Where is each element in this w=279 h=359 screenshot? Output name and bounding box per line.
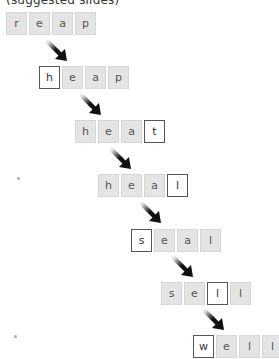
letter-tile: a bbox=[121, 120, 142, 143]
letter-tile: p bbox=[75, 12, 96, 35]
letter-tile: e bbox=[98, 120, 119, 143]
word-row-heat: h e a t bbox=[75, 120, 165, 143]
letter-tile: r bbox=[6, 12, 27, 35]
changed-letter-tile: t bbox=[144, 120, 165, 143]
letter-tile: a bbox=[52, 12, 73, 35]
word-row-well: w e l l bbox=[193, 335, 279, 358]
letter-tile: l bbox=[200, 229, 221, 252]
letter-tile: e bbox=[184, 282, 205, 305]
changed-letter-tile: h bbox=[39, 66, 60, 89]
stray-mark bbox=[17, 177, 20, 180]
arrow-down-right-icon bbox=[172, 256, 194, 278]
changed-letter-tile: s bbox=[131, 229, 152, 252]
letter-tile: e bbox=[121, 174, 142, 197]
letter-tile: l bbox=[239, 335, 260, 358]
letter-tile: l bbox=[230, 282, 251, 305]
letter-tile: a bbox=[177, 229, 198, 252]
arrow-down-right-icon bbox=[110, 148, 132, 170]
word-row-reap: r e a p bbox=[6, 12, 96, 35]
stray-mark bbox=[14, 335, 17, 338]
arrow-down-right-icon bbox=[46, 40, 68, 62]
letter-tile: h bbox=[75, 120, 96, 143]
letter-tile: e bbox=[154, 229, 175, 252]
letter-tile: h bbox=[98, 174, 119, 197]
letter-tile: s bbox=[161, 282, 182, 305]
letter-tile: e bbox=[216, 335, 237, 358]
arrow-down-right-icon bbox=[203, 309, 225, 331]
arrow-down-right-icon bbox=[80, 94, 102, 116]
changed-letter-tile: l bbox=[207, 282, 228, 305]
letter-tile: a bbox=[85, 66, 106, 89]
word-row-sell: s e l l bbox=[161, 282, 251, 305]
word-row-heal: h e a l bbox=[98, 174, 188, 197]
letter-tile: p bbox=[108, 66, 129, 89]
word-row-seal: s e a l bbox=[131, 229, 221, 252]
letter-tile: a bbox=[144, 174, 165, 197]
changed-letter-tile: l bbox=[167, 174, 188, 197]
letter-tile: e bbox=[62, 66, 83, 89]
arrow-down-right-icon bbox=[140, 202, 162, 224]
changed-letter-tile: w bbox=[193, 335, 214, 358]
letter-tile: e bbox=[29, 12, 50, 35]
diagram-title: (suggested slides) bbox=[6, 0, 119, 7]
word-row-heap: h e a p bbox=[39, 66, 129, 89]
letter-tile: l bbox=[262, 335, 279, 358]
